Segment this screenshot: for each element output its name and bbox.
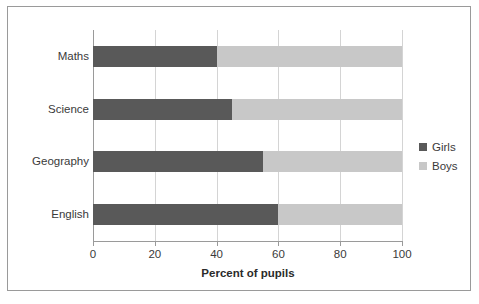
bar-segment-maths-boys — [217, 46, 402, 67]
bar-segment-maths-girls — [93, 46, 217, 67]
chart-legend: GirlsBoys — [419, 137, 471, 175]
bar-segment-geography-boys — [263, 151, 402, 172]
legend-label-girls: Girls — [432, 141, 456, 153]
x-axis-title: Percent of pupils — [93, 267, 403, 279]
x-tick-40 — [217, 241, 218, 246]
category-label-science: Science — [15, 99, 89, 120]
category-axis: MathsScienceGeographyEnglish — [11, 30, 89, 241]
bar-science — [93, 99, 402, 120]
x-tick-60 — [278, 241, 279, 246]
legend-entry-girls: Girls — [419, 137, 471, 156]
bar-segment-english-boys — [278, 204, 402, 225]
legend-label-boys: Boys — [432, 160, 458, 172]
category-label-maths: Maths — [15, 46, 89, 67]
x-tick-label-20: 20 — [135, 248, 175, 260]
bar-segment-science-boys — [232, 99, 402, 120]
x-tick-0 — [93, 241, 94, 246]
category-label-geography: Geography — [15, 151, 89, 172]
x-tick-label-0: 0 — [73, 248, 113, 260]
plot-area — [93, 30, 402, 241]
bar-segment-geography-girls — [93, 151, 263, 172]
gridline-100 — [402, 30, 403, 241]
bar-english — [93, 204, 402, 225]
legend-swatch-girls-icon — [419, 143, 427, 151]
x-tick-20 — [155, 241, 156, 246]
x-tick-label-60: 60 — [258, 248, 298, 260]
bar-segment-english-girls — [93, 204, 278, 225]
x-tick-label-100: 100 — [382, 248, 422, 260]
x-tick-label-40: 40 — [197, 248, 237, 260]
x-axis-line — [93, 241, 403, 242]
legend-swatch-boys-icon — [419, 162, 427, 170]
bar-segment-science-girls — [93, 99, 232, 120]
x-tick-80 — [340, 241, 341, 246]
bar-maths — [93, 46, 402, 67]
x-tick-label-80: 80 — [320, 248, 360, 260]
category-label-english: English — [15, 204, 89, 225]
bar-geography — [93, 151, 402, 172]
chart-frame: MathsScienceGeographyEnglish 02040608010… — [7, 6, 471, 291]
x-tick-100 — [402, 241, 403, 246]
legend-entry-boys: Boys — [419, 156, 471, 175]
